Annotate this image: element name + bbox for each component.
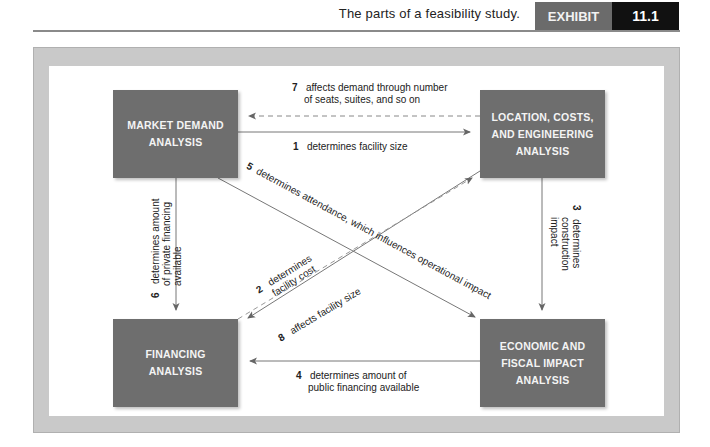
edge-label-1: 1 determines facility size [293, 141, 408, 153]
edge-text: of private financing [161, 202, 172, 298]
edge-label-4: 4 determines amount of public financing … [296, 370, 419, 394]
edge-text: impact [549, 205, 560, 246]
node-market-demand-analysis: MARKET DEMAND ANALYSIS [113, 90, 238, 178]
edge-number: 6 [150, 292, 161, 298]
node-location-costs-engineering-analysis: LOCATION, COSTS, AND ENGINEERING ANALYSI… [480, 90, 605, 178]
node-label: ECONOMIC AND FISCAL IMPACT ANALYSIS [493, 338, 593, 389]
node-label: MARKET DEMAND ANALYSIS [126, 117, 226, 151]
edge-text: affects demand through number [306, 82, 448, 93]
node-economic-fiscal-impact-analysis: ECONOMIC AND FISCAL IMPACT ANALYSIS [480, 319, 605, 407]
edge-text: public financing available [296, 382, 419, 393]
edge-text: determines amount [150, 198, 161, 284]
edge-label-6: 6 determines amount of private financing… [150, 198, 183, 298]
edge-text: determines amount of [310, 370, 407, 381]
edge-label-3: 3 determines construction impact [549, 205, 582, 271]
edge-number: 4 [296, 370, 302, 381]
edge-text: determines facility size [307, 141, 408, 152]
node-label: LOCATION, COSTS, AND ENGINEERING ANALYSI… [487, 109, 599, 160]
node-financing-analysis: FINANCING ANALYSIS [113, 319, 238, 407]
arrow-2 [248, 171, 480, 318]
edge-number: 7 [292, 82, 298, 93]
edge-number: 3 [571, 205, 582, 211]
edge-number: 1 [293, 141, 299, 152]
edge-label-7: 7 affects demand through number of seats… [292, 82, 447, 106]
edge-text: available [172, 247, 183, 298]
node-label: FINANCING ANALYSIS [136, 346, 216, 380]
edge-text: construction [560, 205, 571, 271]
edge-text: determines [571, 219, 582, 268]
edge-text: of seats, suites, and so on [292, 94, 420, 105]
